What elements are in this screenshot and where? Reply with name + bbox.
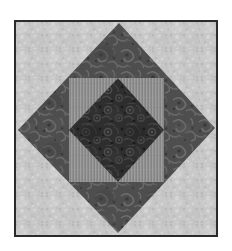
quilt-block-svg [14, 20, 218, 237]
quilt-block-figure: Square in a Square quilt block [14, 20, 218, 237]
block-title: Square in a Square quilt block [14, 237, 15, 238]
page-canvas: Square in a Square quilt block [0, 0, 232, 251]
